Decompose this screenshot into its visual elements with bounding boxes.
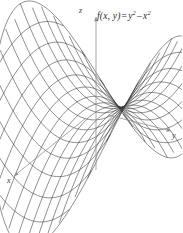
mesh-line bbox=[0, 60, 104, 156]
equation-arguments: (x, y) bbox=[100, 11, 121, 21]
equation-term2-exponent: 2 bbox=[147, 9, 150, 16]
axis-line-x bbox=[14, 118, 86, 176]
mesh-line bbox=[75, 92, 182, 196]
equation-equals: = bbox=[121, 11, 129, 21]
equation-operator: – bbox=[136, 11, 143, 21]
axis-line-y bbox=[108, 115, 171, 131]
mesh-line bbox=[101, 80, 182, 130]
mesh-line bbox=[0, 21, 63, 68]
mesh-line bbox=[129, 52, 182, 99]
axis-label-z: z bbox=[79, 6, 82, 15]
saddle-wireframe-svg bbox=[0, 0, 182, 233]
axis-label-y: y bbox=[172, 131, 176, 140]
axis-label-x: x bbox=[7, 176, 11, 185]
equation-label: f(x, y)=y2–x2 bbox=[97, 9, 151, 21]
mesh-line bbox=[0, 193, 69, 222]
mesh-line bbox=[69, 36, 182, 113]
mesh-line bbox=[42, 7, 183, 107]
surface-plot-figure: f(x, y)=y2–x2 z y x bbox=[0, 0, 182, 233]
mesh-line bbox=[37, 107, 173, 233]
mesh-line bbox=[107, 69, 182, 142]
wireframe-mesh bbox=[0, 1, 182, 233]
